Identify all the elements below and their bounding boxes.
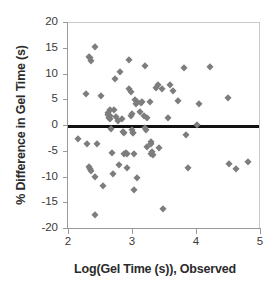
- y-tick-label: -20: [18, 222, 58, 234]
- data-point-marker: [108, 150, 115, 157]
- x-axis-title: Log(Gel Time (s)), Observed: [40, 262, 270, 276]
- data-point-marker: [109, 170, 116, 177]
- data-point-marker: [94, 140, 101, 147]
- data-point-marker: [117, 69, 124, 76]
- data-point-marker: [110, 106, 117, 113]
- zero-reference-line: [68, 125, 259, 128]
- data-point-marker: [87, 57, 94, 64]
- data-point-marker: [141, 62, 148, 69]
- data-point-marker: [196, 101, 203, 108]
- x-tick-mark: [260, 229, 261, 234]
- data-point-marker: [84, 140, 91, 147]
- data-point-marker: [169, 88, 176, 95]
- y-tick-label: 15: [18, 42, 58, 54]
- data-point-marker: [75, 135, 82, 142]
- data-point-marker: [120, 130, 127, 137]
- data-point-marker: [232, 165, 239, 172]
- data-point-marker: [91, 211, 98, 218]
- data-point-marker: [111, 75, 118, 82]
- data-point-marker: [185, 164, 192, 171]
- data-point-marker: [224, 94, 231, 101]
- data-point-marker: [130, 130, 137, 137]
- data-point-marker: [98, 92, 105, 99]
- data-point-marker: [245, 158, 252, 165]
- x-tick-label: 4: [181, 236, 211, 248]
- data-point-marker: [155, 144, 162, 151]
- data-point-marker: [116, 161, 123, 168]
- data-point-marker: [100, 183, 107, 190]
- x-axis-line: [68, 228, 261, 229]
- data-point-marker: [82, 90, 89, 97]
- data-point-marker: [133, 174, 140, 181]
- x-tick-mark: [196, 229, 197, 234]
- data-point-marker: [226, 160, 233, 167]
- data-point-marker: [127, 88, 134, 95]
- data-point-marker: [144, 115, 151, 122]
- data-point-marker: [158, 86, 165, 93]
- y-tick-label: 0: [18, 119, 58, 131]
- data-point-marker: [130, 150, 137, 157]
- y-tick-label: 5: [18, 93, 58, 105]
- data-point-marker: [164, 115, 171, 122]
- data-point-marker: [123, 164, 130, 171]
- y-tick-label: -10: [18, 171, 58, 183]
- x-tick-label: 3: [117, 236, 147, 248]
- x-tick-label: 2: [53, 236, 83, 248]
- data-point-marker: [159, 205, 166, 212]
- data-point-marker: [181, 65, 188, 72]
- data-point-marker: [119, 115, 126, 122]
- data-point-marker: [182, 132, 189, 139]
- plot-area: [68, 22, 260, 228]
- y-tick-label: -5: [18, 145, 58, 157]
- scatter-chart: % Difference in Gel Time (s) -20-15-10-5…: [0, 0, 277, 297]
- data-point-marker: [91, 44, 98, 51]
- data-point-marker: [146, 98, 153, 105]
- data-point-marker: [130, 187, 137, 194]
- data-point-marker: [194, 122, 201, 129]
- x-tick-mark: [68, 229, 69, 234]
- y-tick-label: 20: [18, 16, 58, 28]
- data-point-marker: [174, 97, 181, 104]
- data-point-marker: [126, 56, 133, 63]
- x-tick-mark: [132, 229, 133, 234]
- y-tick-label: 10: [18, 68, 58, 80]
- data-point-marker: [206, 63, 213, 70]
- x-tick-label: 5: [245, 236, 275, 248]
- y-tick-label: -15: [18, 196, 58, 208]
- data-point-marker: [91, 173, 98, 180]
